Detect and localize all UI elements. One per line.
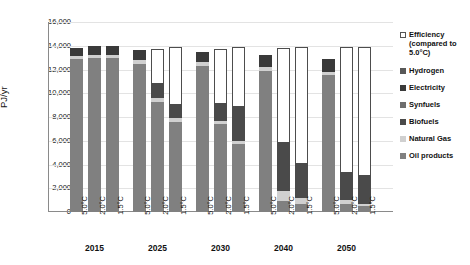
legend-swatch-icon — [400, 136, 406, 142]
legend-item-electricity[interactable]: Electricity — [400, 83, 468, 92]
y-axis-title: PJ/yr — [0, 86, 9, 108]
bar-segment-oil-products — [259, 71, 272, 212]
bar-segment-efficiency — [340, 47, 353, 172]
bar-segment-oil-products — [106, 58, 119, 212]
legend-swatch-icon — [400, 32, 406, 38]
bar-segment-biofuels — [151, 83, 164, 98]
bar-series-container — [48, 22, 393, 212]
bar-segment-oil-products — [70, 59, 83, 212]
x-tick-label-2-0°C: 2.0°C — [98, 213, 107, 226]
bar-segment-electricity — [133, 50, 146, 61]
x-tick-label-2-0°C: 2.0°C — [350, 213, 359, 226]
x-tick-label-1-5°C: 1.5°C — [116, 213, 125, 226]
legend-label: Natural Gas — [409, 134, 451, 143]
bar-segment-oil-products — [88, 58, 101, 212]
x-tick-label-2-0°C: 2.0°C — [287, 213, 296, 226]
legend-swatch-icon — [400, 102, 406, 108]
bar-2050-5-0°C[interactable] — [322, 59, 335, 212]
x-tick-label-5-0°C: 5.0°C — [269, 213, 278, 226]
legend-item-biofuels[interactable]: Biofuels — [400, 117, 468, 126]
bar-segment-efficiency — [169, 47, 182, 104]
bar-2015-2-0°C[interactable] — [88, 46, 101, 212]
legend-label: Oil products — [409, 151, 453, 160]
x-group-label-2040: 2040 — [274, 243, 293, 253]
x-tick-label-5-0°C: 5.0°C — [332, 213, 341, 226]
x-tick-label-2-0°C: 2.0°C — [224, 213, 233, 226]
x-axis-group-labels: 20152025203020402050 — [48, 243, 393, 259]
chart-legend: Efficiency(compared to5.0°C)HydrogenElec… — [400, 30, 468, 168]
x-group-label-2050: 2050 — [337, 243, 356, 253]
x-tick-label-2-0°C: 2.0°C — [161, 213, 170, 226]
legend-item-efficiency[interactable]: Efficiency(compared to5.0°C) — [400, 30, 468, 57]
bar-segment-electricity — [70, 48, 83, 56]
bar-segment-biofuels — [295, 163, 308, 197]
bar-segment-oil-products — [196, 66, 209, 212]
legend-swatch-icon — [400, 85, 406, 91]
bar-2025-2-0°C[interactable] — [151, 49, 164, 212]
bar-segment-efficiency — [214, 49, 227, 102]
legend-label: Electricity — [409, 83, 445, 92]
bar-2040-2-0°C[interactable] — [277, 48, 290, 212]
bar-segment-oil-products — [133, 64, 146, 212]
bar-2030-2-0°C[interactable] — [214, 49, 227, 212]
bar-2015-1-5°C[interactable] — [106, 46, 119, 212]
x-tick-label-5-0°C: 5.0°C — [206, 213, 215, 226]
bar-segment-biofuels — [232, 106, 245, 140]
bar-segment-efficiency — [232, 47, 245, 106]
legend-item-oil[interactable]: Oil products — [400, 151, 468, 160]
legend-label: Biofuels — [409, 117, 439, 126]
x-tick-label-5-0°C: 5.0°C — [143, 213, 152, 226]
bar-2040-1-5°C[interactable] — [295, 47, 308, 212]
x-axis-scenario-labels: 5.0°C2.0°C1.5°C5.0°C2.0°C1.5°C5.0°C2.0°C… — [48, 213, 393, 243]
bar-segment-efficiency — [277, 48, 290, 142]
legend-label: Synfuels — [409, 100, 440, 109]
bar-2015-5-0°C[interactable] — [70, 48, 83, 212]
bar-2030-5-0°C[interactable] — [196, 52, 209, 212]
x-tick-label-5-0°C: 5.0°C — [80, 213, 89, 226]
bar-segment-electricity — [88, 46, 101, 54]
x-group-label-2025: 2025 — [148, 243, 167, 253]
bar-segment-electricity — [259, 55, 272, 67]
bar-2025-1-5°C[interactable] — [169, 47, 182, 212]
bar-segment-electricity — [106, 46, 119, 54]
legend-label: Hydrogen — [409, 66, 444, 75]
bar-segment-efficiency — [151, 49, 164, 82]
plot-area — [48, 22, 393, 212]
legend-item-natural[interactable]: Natural Gas — [400, 134, 468, 143]
legend-item-hydrogen[interactable]: Hydrogen — [400, 66, 468, 75]
x-tick-label-1-5°C: 1.5°C — [179, 213, 188, 226]
legend-swatch-icon — [400, 68, 406, 74]
bar-segment-biofuels — [277, 142, 290, 191]
bar-segment-efficiency — [358, 47, 371, 175]
bar-2025-5-0°C[interactable] — [133, 50, 146, 212]
legend-label: Efficiency(compared to5.0°C) — [409, 30, 457, 57]
legend-item-synfuels[interactable]: Synfuels — [400, 100, 468, 109]
bar-segment-electricity — [196, 52, 209, 63]
x-tick-label-1-5°C: 1.5°C — [242, 213, 251, 226]
bar-segment-oil-products — [322, 75, 335, 212]
bar-2050-1-5°C[interactable] — [358, 47, 371, 212]
x-tick-label-1-5°C: 1.5°C — [368, 213, 377, 226]
chart-root: PJ/yr 16,00014,00012,00010,0008,0006,000… — [0, 0, 470, 265]
legend-swatch-icon — [400, 153, 406, 159]
bar-2050-2-0°C[interactable] — [340, 47, 353, 212]
legend-swatch-icon — [400, 119, 406, 125]
bar-segment-electricity — [322, 59, 335, 72]
bar-segment-efficiency — [295, 47, 308, 163]
bar-segment-biofuels — [214, 103, 227, 121]
bar-segment-biofuels — [169, 104, 182, 118]
bar-2030-1-5°C[interactable] — [232, 47, 245, 212]
bar-2040-5-0°C[interactable] — [259, 55, 272, 212]
x-tick-label-1-5°C: 1.5°C — [305, 213, 314, 226]
x-group-label-2030: 2030 — [211, 243, 230, 253]
x-group-label-2015: 2015 — [85, 243, 104, 253]
